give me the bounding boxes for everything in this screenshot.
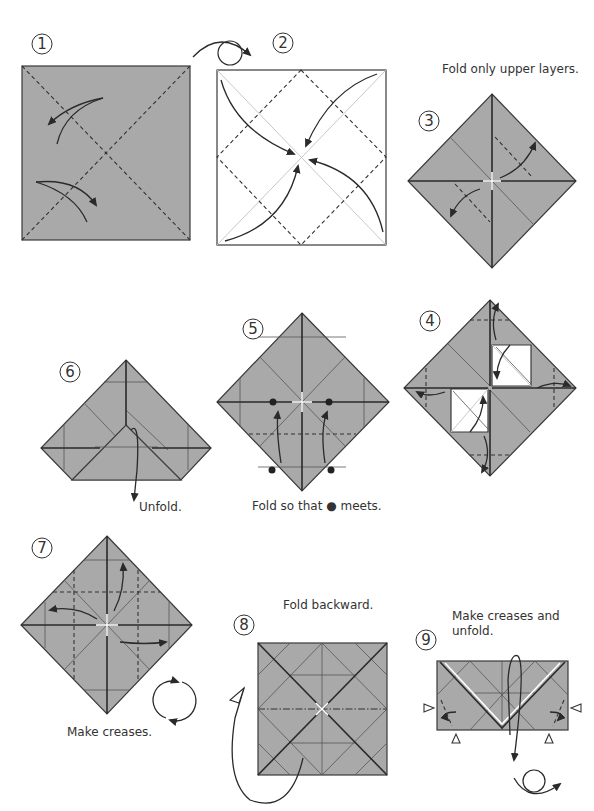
triangle-marker-icon [545, 734, 553, 743]
step-6: 6 [41, 360, 211, 500]
step-9: 9 [416, 630, 581, 794]
step-7: 7 [21, 536, 196, 721]
step-5: 5 [217, 313, 389, 491]
reference-dot [326, 399, 333, 406]
step-3-caption: Fold only upper layers. [442, 62, 579, 76]
turn-over-icon [514, 770, 560, 794]
step-7-number: 7 [37, 539, 47, 557]
step-3-number: 3 [424, 112, 434, 130]
step-9-number: 9 [421, 631, 431, 649]
rotate-icon [153, 681, 196, 721]
step-4-number: 4 [425, 312, 435, 330]
step-2: 2 [217, 33, 386, 245]
step-2-number: 2 [278, 34, 288, 52]
reference-dot [270, 399, 277, 406]
mountain-arrowhead-icon [230, 688, 244, 703]
turn-over-icon [193, 41, 250, 65]
step-5-number: 5 [248, 320, 258, 338]
step-1: 1 [22, 34, 190, 240]
reference-dot [269, 467, 276, 474]
step-9-caption-line2: unfold. [452, 624, 494, 638]
origami-diagram: 1 2 3 [0, 0, 594, 811]
step-4: 4 [404, 300, 576, 476]
step-8: 8 [230, 615, 387, 803]
step-5-caption: Fold so that ● meets. [252, 499, 382, 513]
reference-dot [328, 467, 335, 474]
step-6-number: 6 [65, 363, 75, 381]
step-7-caption: Make creases. [67, 725, 152, 739]
step-9-caption-line1: Make creases and [452, 609, 560, 623]
step-3: 3 [408, 94, 576, 268]
step-8-caption: Fold backward. [283, 598, 373, 612]
triangle-marker-icon [452, 734, 460, 743]
step-6-caption: Unfold. [139, 500, 182, 514]
triangle-marker-icon [571, 704, 581, 712]
triangle-marker-icon [424, 704, 434, 712]
step-1-number: 1 [37, 35, 47, 53]
step-8-number: 8 [239, 616, 249, 634]
